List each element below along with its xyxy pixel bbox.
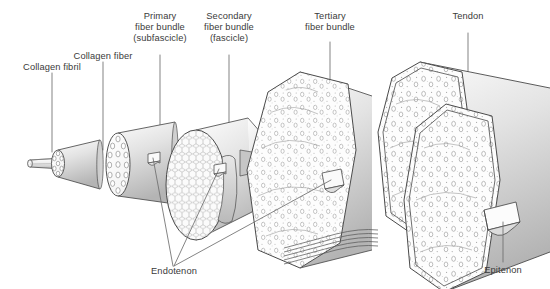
collagen-fiber-structure <box>52 140 104 189</box>
label-tertiary-fiber-bundle-line1: Tertiary <box>314 11 345 22</box>
tendon-structure <box>372 55 550 289</box>
label-collagen-fibril: Collagen fibril <box>23 62 81 73</box>
tertiary-fiber-bundle-structure <box>240 65 378 275</box>
label-secondary-fiber-bundle-line1: Secondary <box>206 11 251 22</box>
tendon-diagram-artwork <box>0 0 550 289</box>
label-secondary-fiber-bundle-line3: (fascicle) <box>210 33 248 44</box>
label-tertiary-fiber-bundle-line2: fiber bundle <box>305 22 355 33</box>
label-collagen-fiber: Collagen fiber <box>74 51 133 62</box>
label-primary-fiber-bundle-line2: fiber bundle <box>135 22 185 33</box>
label-secondary-fiber-bundle-line2: fiber bundle <box>204 22 254 33</box>
label-endotenon: Endotenon <box>151 266 197 277</box>
collagen-fibril-structure <box>28 159 55 169</box>
label-tendon: Tendon <box>452 11 483 22</box>
label-epitenon: Epitenon <box>484 265 522 276</box>
label-primary-fiber-bundle-line3: (subfascicle) <box>133 33 186 44</box>
label-primary-fiber-bundle-line1: Primary <box>144 11 177 22</box>
tendon-structure-figure: Collagen fibril Collagen fiber Primary f… <box>0 0 550 289</box>
